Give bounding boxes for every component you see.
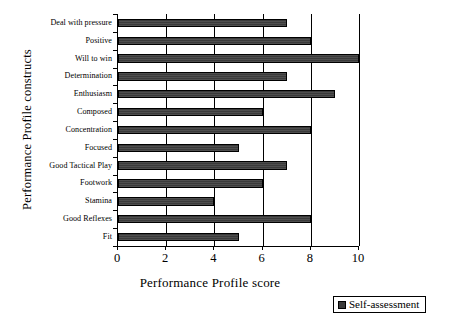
x-axis-tick-label: 6 [258, 252, 264, 265]
bar [118, 54, 359, 62]
bar [118, 161, 287, 169]
gridline [359, 14, 360, 246]
plot-area [117, 14, 358, 246]
bar [118, 72, 287, 80]
y-axis-tick-label: Composed [38, 103, 116, 121]
x-axis-tick-label: 0 [114, 252, 120, 265]
y-axis-tick-label: Deal with pressure [38, 14, 116, 32]
bar-row [118, 32, 359, 50]
legend-label: Self-assessment [349, 299, 419, 310]
legend: Self-assessment [333, 296, 426, 313]
bar-row [118, 210, 359, 228]
x-axis-tick-mark [262, 246, 263, 250]
bars-layer [118, 14, 358, 246]
bar [118, 197, 214, 205]
bar-row [118, 68, 359, 86]
y-axis-tick-label: Enthusiasm [38, 85, 116, 103]
y-axis-tick-label: Determination [38, 68, 116, 86]
performance-profile-bar-chart: Performance Profile constructs Deal with… [0, 0, 457, 326]
bar [118, 179, 263, 187]
bar-row [118, 14, 359, 32]
bar-row [118, 192, 359, 210]
bar [118, 90, 335, 98]
y-axis-tick-label: Good Tactical Play [38, 157, 116, 175]
bar-row [118, 85, 359, 103]
bar [118, 215, 311, 223]
bar [118, 37, 311, 45]
x-axis-tick-mark [358, 246, 359, 250]
x-axis-line [117, 246, 358, 247]
bar [118, 144, 239, 152]
y-axis-title: Performance Profile constructs [20, 15, 35, 245]
bar-row [118, 175, 359, 193]
legend-swatch-icon [338, 301, 346, 309]
y-axis-tick-label: Good Reflexes [38, 210, 116, 228]
x-axis-tick-mark [117, 246, 118, 250]
y-axis-tick-label: Focused [38, 139, 116, 157]
x-axis-tick-labels: 0246810 [0, 252, 457, 268]
x-axis-tick-mark [165, 246, 166, 250]
x-axis-tick-mark [213, 246, 214, 250]
bar [118, 126, 311, 134]
bar [118, 108, 263, 116]
bar-row [118, 103, 359, 121]
bar-row [118, 121, 359, 139]
bar-row [118, 50, 359, 68]
bar-row [118, 157, 359, 175]
y-axis-tick-label: Footwork [38, 175, 116, 193]
y-axis-tick-label: Fit [38, 228, 116, 246]
bar-row [118, 139, 359, 157]
x-axis-tick-label: 2 [162, 252, 168, 265]
y-axis-tick-label: Will to win [38, 50, 116, 68]
x-axis-tick-label: 4 [210, 252, 216, 265]
x-axis-tick-mark [310, 246, 311, 250]
x-axis-title: Performance Profile score [60, 275, 360, 291]
bar [118, 19, 287, 27]
y-axis-tick-label: Positive [38, 32, 116, 50]
bar-row [118, 228, 359, 246]
y-axis-tick-labels: Deal with pressurePositiveWill to winDet… [38, 14, 116, 246]
x-axis-tick-label: 10 [352, 252, 365, 265]
bar [118, 233, 239, 241]
x-axis-tick-label: 8 [307, 252, 313, 265]
y-axis-tick-label: Concentration [38, 121, 116, 139]
y-axis-tick-label: Stamina [38, 192, 116, 210]
